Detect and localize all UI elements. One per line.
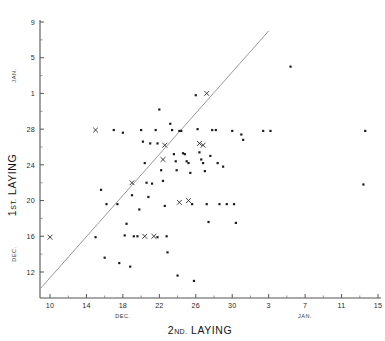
data-point-dot	[262, 130, 264, 132]
y-tick-label: 12	[27, 268, 35, 277]
data-point-dot	[197, 128, 199, 130]
x-axis-title: 2ND. LAYING	[168, 324, 233, 336]
data-point-dot	[147, 196, 149, 198]
x-tick-label: 7	[303, 301, 307, 310]
data-point-dot	[162, 180, 164, 182]
reference-line	[41, 31, 269, 288]
data-point-dot	[176, 274, 178, 276]
y-axis-title: 1ST. LAYING	[6, 154, 18, 217]
x-tick-label: 10	[46, 301, 54, 310]
data-point-dot	[189, 172, 191, 174]
data-point-dot	[242, 139, 244, 141]
x-tick-label: 15	[374, 301, 382, 310]
data-point-dot	[116, 203, 118, 205]
data-point-dot	[209, 155, 211, 157]
data-point-dot	[198, 151, 200, 153]
data-point-dot	[118, 262, 120, 264]
data-point-dot	[231, 130, 233, 132]
data-point-x	[186, 198, 191, 203]
x-tick-label: 30	[228, 301, 236, 310]
y-tick-label: 16	[27, 232, 35, 241]
data-point-dot	[104, 257, 106, 259]
data-point-x	[48, 235, 53, 240]
data-point-dot	[180, 130, 182, 132]
data-point-dot	[175, 160, 177, 162]
data-point-dot	[142, 141, 144, 143]
data-point-dot	[151, 183, 153, 185]
x-tick-label: 14	[82, 301, 90, 310]
x-tick-label: 11	[338, 301, 346, 310]
data-point-dot	[207, 221, 209, 223]
data-point-dot	[195, 94, 197, 96]
data-point-dot	[193, 280, 195, 282]
data-point-x	[161, 157, 166, 162]
data-point-dot	[158, 108, 160, 110]
y-month-label: DEC.	[11, 246, 17, 261]
data-point-dot	[184, 153, 186, 155]
x-tick-label: 18	[119, 301, 127, 310]
data-point-dot	[235, 222, 237, 224]
data-point-dot	[166, 251, 168, 253]
data-point-dot	[364, 130, 366, 132]
data-point-x	[151, 234, 156, 239]
y-tick-label: 5	[31, 53, 35, 62]
plot-canvas: 1014182226303711151216202428159DEC.JAN.D…	[0, 0, 385, 341]
data-point-x	[162, 143, 167, 148]
y-tick-label: 20	[27, 196, 35, 205]
data-point-dot	[240, 133, 242, 135]
data-point-dot	[129, 266, 131, 268]
data-point-dot	[145, 182, 147, 184]
data-point-dot	[222, 166, 224, 168]
data-point-dot	[233, 203, 235, 205]
x-tick-label: 22	[155, 301, 163, 310]
scatter-plot-figure: 1014182226303711151216202428159DEC.JAN.D…	[0, 0, 385, 341]
y-tick-label: 24	[27, 161, 35, 170]
data-point-dot	[144, 162, 146, 164]
data-point-dot	[122, 132, 124, 134]
data-point-dot	[269, 130, 271, 132]
data-point-dot	[289, 66, 291, 68]
data-point-dot	[113, 129, 115, 131]
data-point-dot	[226, 203, 228, 205]
data-point-dot	[166, 235, 168, 237]
data-point-dot	[217, 162, 219, 164]
data-point-dot	[206, 203, 208, 205]
data-point-dot	[155, 129, 157, 131]
data-point-dot	[362, 183, 364, 185]
data-point-dot	[202, 162, 204, 164]
data-point-dot	[94, 236, 96, 238]
data-point-dot	[100, 189, 102, 191]
y-month-label: JAN.	[11, 69, 17, 83]
y-tick-label: 28	[27, 125, 35, 134]
data-point-dot	[138, 208, 140, 210]
data-point-dot	[171, 129, 173, 131]
x-tick-label: 3	[267, 301, 271, 310]
data-point-x	[142, 234, 147, 239]
data-point-dot	[176, 169, 178, 171]
data-point-dot	[164, 205, 166, 207]
data-point-dot	[133, 235, 135, 237]
data-point-x	[204, 91, 209, 96]
data-point-dot	[156, 142, 158, 144]
x-tick-label: 26	[192, 301, 200, 310]
data-point-dot	[160, 169, 162, 171]
data-point-dot	[215, 129, 217, 131]
data-point-dot	[204, 170, 206, 172]
data-point-dot	[218, 203, 220, 205]
data-point-dot	[105, 203, 107, 205]
data-point-dot	[156, 236, 158, 238]
y-tick-label: 1	[31, 89, 35, 98]
data-point-dot	[149, 142, 151, 144]
data-point-dot	[124, 234, 126, 236]
data-point-dot	[136, 235, 138, 237]
data-point-dot	[187, 162, 189, 164]
data-point-dot	[131, 194, 133, 196]
data-point-dot	[173, 153, 175, 155]
data-point-dot	[191, 203, 193, 205]
data-point-dot	[200, 158, 202, 160]
y-tick-label: 9	[31, 18, 35, 27]
data-point-x	[93, 128, 98, 133]
x-month-label: DEC.	[115, 313, 130, 319]
data-point-dot	[125, 223, 127, 225]
data-point-x	[177, 200, 182, 205]
